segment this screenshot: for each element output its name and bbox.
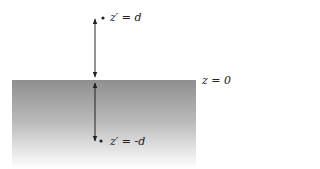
image-position-label: z′ = -d [110,136,145,148]
source-charge-dot [101,16,104,19]
image-charge-dot [99,139,102,142]
source-position-label: z′ = d [110,12,142,24]
boundary-label: z = 0 [202,75,231,87]
